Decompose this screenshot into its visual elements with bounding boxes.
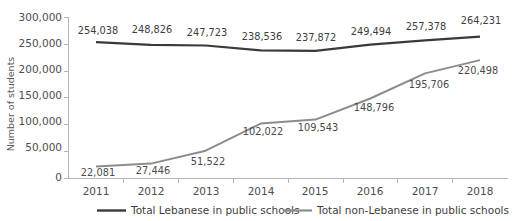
series-line-total-non-lebanese — [96, 60, 480, 166]
data-label: 237,872 — [296, 32, 337, 43]
x-tick-label: 2012 — [138, 185, 165, 197]
data-label: 247,723 — [187, 27, 228, 38]
y-tick-label: 0 — [55, 171, 62, 183]
data-label: 248,826 — [132, 24, 173, 35]
x-axis-labels: 2011 2012 2013 2014 2015 2016 2017 2018 — [83, 185, 494, 197]
line-chart-container: Number of students 300,000 250,000 200,0… — [0, 0, 520, 221]
y-tick-label: 250,000 — [19, 37, 62, 49]
legend-label-total-non-lebanese: Total non-Lebanese in public schools — [316, 204, 509, 216]
chart-canvas: Number of students 300,000 250,000 200,0… — [0, 0, 520, 221]
y-axis-title-text: Number of students — [5, 57, 16, 152]
data-label: 257,378 — [406, 21, 447, 32]
data-label: 22,081 — [81, 167, 115, 178]
y-axis-title: Number of students — [5, 57, 16, 152]
x-axis — [69, 179, 509, 184]
data-label: 249,494 — [351, 26, 392, 37]
x-tick-label: 2011 — [83, 185, 110, 197]
series-line-total-lebanese — [96, 37, 480, 51]
y-axis — [64, 17, 69, 178]
x-tick-label: 2015 — [302, 185, 329, 197]
chart-legend: Total Lebanese in public schools Total n… — [97, 204, 509, 216]
y-axis-ticks: 300,000 250,000 200,000 150,000 100,000 … — [19, 11, 62, 183]
y-tick-label: 150,000 — [19, 89, 62, 101]
data-label: 27,446 — [136, 165, 170, 176]
y-tick-label: 200,000 — [19, 63, 62, 75]
data-label: 195,706 — [409, 79, 450, 90]
data-label: 264,231 — [461, 15, 502, 26]
x-tick-label: 2013 — [193, 185, 220, 197]
x-tick-label: 2014 — [248, 185, 275, 197]
legend-label-total-lebanese: Total Lebanese in public schools — [130, 204, 299, 216]
data-label: 109,543 — [298, 122, 339, 133]
y-tick-label: 300,000 — [19, 11, 62, 23]
x-tick-label: 2017 — [412, 185, 439, 197]
x-tick-label: 2016 — [357, 185, 384, 197]
data-label: 148,796 — [354, 102, 395, 113]
y-tick-label: 100,000 — [19, 115, 62, 127]
data-label: 51,522 — [191, 156, 225, 167]
data-label: 254,038 — [78, 25, 119, 36]
data-label: 238,536 — [242, 31, 283, 42]
x-tick-label: 2018 — [467, 185, 494, 197]
legend-item-total-non-lebanese[interactable]: Total non-Lebanese in public schools — [283, 204, 509, 216]
legend-item-total-lebanese[interactable]: Total Lebanese in public schools — [97, 204, 299, 216]
y-tick-label: 50,000 — [25, 141, 62, 153]
data-label: 220,498 — [458, 65, 499, 76]
data-label: 102,022 — [243, 126, 284, 137]
